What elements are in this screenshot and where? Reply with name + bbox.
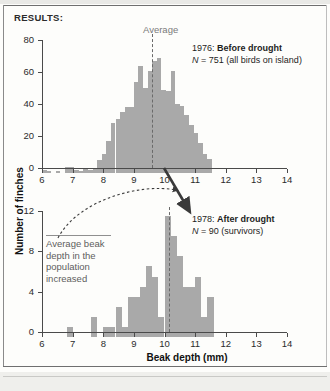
x-tick-label: 6 <box>32 338 52 349</box>
y-tick <box>38 332 42 333</box>
x-tick-label: 9 <box>124 174 144 185</box>
average-label: Average <box>143 24 178 35</box>
caption-1978-eq: = <box>201 226 206 236</box>
note-line-1: Average beak <box>46 238 124 250</box>
x-tick <box>287 333 288 337</box>
note-increase: Average beak depth in the population inc… <box>46 238 124 284</box>
x-tick-label: 14 <box>277 174 297 185</box>
x-tick-label: 13 <box>246 338 266 349</box>
histogram-bar <box>207 297 213 337</box>
y-tick-label: 80 <box>12 34 34 45</box>
x-tick-label: 11 <box>185 174 205 185</box>
y-tick <box>38 292 42 293</box>
caption-1978-note: (survivors) <box>221 226 263 236</box>
x-axis-title: Beak depth (mm) <box>22 352 330 363</box>
page-border-right <box>326 5 327 367</box>
x-tick <box>195 169 196 173</box>
x-tick-label: 8 <box>93 338 113 349</box>
x-tick <box>103 169 104 173</box>
caption-1976-nvalue: 751 <box>209 55 224 65</box>
note-line-2: depth in the <box>46 250 124 262</box>
y-tick-label: 0 <box>12 326 34 337</box>
y-tick-label: 60 <box>12 66 34 77</box>
average-line-1976 <box>152 34 153 168</box>
histogram-bar <box>91 317 97 337</box>
x-tick <box>73 169 74 173</box>
y-tick <box>38 251 42 252</box>
note-line-3: population <box>46 261 124 273</box>
x-tick <box>195 333 196 337</box>
results-label: RESULTS: <box>14 12 63 23</box>
x-tick <box>226 169 227 173</box>
average-line-1978 <box>169 207 170 332</box>
caption-1978-year: 1978: <box>192 214 215 224</box>
page-footer-band <box>0 372 330 391</box>
x-tick-label: 8 <box>93 174 113 185</box>
x-tick-label: 12 <box>216 338 236 349</box>
y-tick <box>38 40 42 41</box>
note-line-4: increased <box>46 273 124 285</box>
y-tick <box>38 168 42 169</box>
histogram-bar <box>47 171 52 173</box>
y-axis-1976 <box>42 40 43 169</box>
x-tick <box>287 169 288 173</box>
caption-1976-n: N <box>192 55 199 65</box>
note-underline <box>46 235 111 236</box>
caption-1976: 1976: Before drought N = 751 (all birds … <box>192 42 302 66</box>
x-tick <box>134 169 135 173</box>
caption-1976-note: (all birds on island) <box>226 55 302 65</box>
y-tick <box>38 72 42 73</box>
histogram-bar <box>56 171 61 173</box>
x-tick-label: 9 <box>124 338 144 349</box>
x-tick-label: 7 <box>63 338 83 349</box>
x-tick-label: 11 <box>185 338 205 349</box>
caption-1978-title: After drought <box>217 214 275 224</box>
page-edge-top <box>0 0 330 4</box>
caption-1978-n: N <box>192 226 199 236</box>
x-tick <box>42 169 43 173</box>
page-border-left <box>3 5 4 367</box>
y-tick-label: 20 <box>12 130 34 141</box>
x-tick <box>256 333 257 337</box>
x-tick <box>42 333 43 337</box>
x-tick <box>73 333 74 337</box>
y-tick-label: 4 <box>12 286 34 297</box>
y-tick <box>38 136 42 137</box>
figure-page: RESULTS: 67891011121314 020406080 Averag… <box>0 0 330 391</box>
x-tick <box>134 333 135 337</box>
x-tick-label: 10 <box>155 338 175 349</box>
caption-1978: 1978: After drought N = 90 (survivors) <box>192 213 275 237</box>
x-tick <box>165 169 166 173</box>
page-rule-top <box>3 5 327 6</box>
caption-1976-title: Before drought <box>217 43 282 53</box>
caption-1978-nvalue: 90 <box>209 226 219 236</box>
x-tick <box>165 333 166 337</box>
x-tick-label: 6 <box>32 174 52 185</box>
x-tick-label: 13 <box>246 174 266 185</box>
x-tick <box>103 333 104 337</box>
x-tick-label: 10 <box>155 174 175 185</box>
page-rule-bottom <box>3 366 327 367</box>
y-tick-label: 40 <box>12 98 34 109</box>
histogram-bar <box>207 159 212 173</box>
x-tick-label: 7 <box>63 174 83 185</box>
y-axis-1978 <box>42 211 43 333</box>
x-tick-label: 12 <box>216 174 236 185</box>
x-tick <box>226 333 227 337</box>
x-tick-label: 14 <box>277 338 297 349</box>
y-tick <box>38 211 42 212</box>
caption-1976-eq: = <box>201 55 206 65</box>
y-axis-title: Number of finches <box>14 167 25 255</box>
y-tick <box>38 104 42 105</box>
x-tick <box>256 169 257 173</box>
page-footer-rule <box>3 376 327 377</box>
caption-1976-year: 1976: <box>192 43 215 53</box>
